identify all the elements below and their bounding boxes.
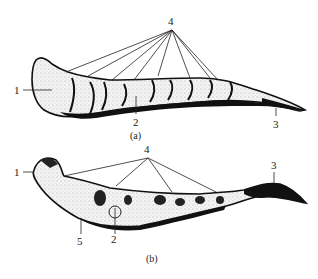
label-1: 1 <box>14 84 20 96</box>
label-4-leaders-a <box>66 30 218 80</box>
caption-b: (b) <box>146 253 158 265</box>
label-1: 1 <box>14 166 20 178</box>
label-3: 3 <box>271 159 277 171</box>
panel-b: 4 1 3 5 2 (b) <box>14 143 306 265</box>
specimen-diagram: 4 1 2 3 (a) 4 <box>0 0 318 279</box>
label-2: 2 <box>111 233 117 245</box>
label-3: 3 <box>273 118 279 130</box>
label-4: 4 <box>168 15 174 27</box>
panel-a: 4 1 2 3 (a) <box>14 15 305 142</box>
label-2: 2 <box>133 116 139 128</box>
caption-a: (a) <box>130 130 141 142</box>
label-5: 5 <box>77 235 83 247</box>
label-4: 4 <box>144 143 150 155</box>
